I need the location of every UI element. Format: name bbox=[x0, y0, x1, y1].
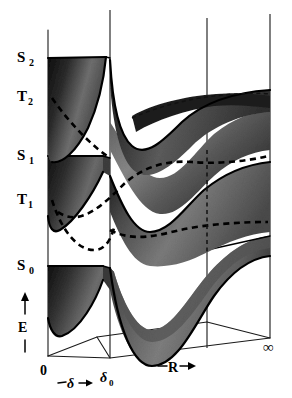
state-label-S0-sub: 0 bbox=[29, 265, 34, 276]
delta-axis-label: δ bbox=[67, 376, 74, 391]
delta-axis-lead-dash bbox=[58, 382, 66, 383]
r-infinity-label: ∞ bbox=[263, 339, 274, 355]
energy-axis-label: E bbox=[18, 320, 27, 335]
state-label-T2-letter: T bbox=[17, 88, 27, 104]
r-axis-label: R bbox=[168, 360, 179, 375]
state-label-S1-sub: 1 bbox=[29, 155, 34, 166]
edge-S2-top-left bbox=[48, 57, 106, 58]
state-label-T2-sub: 2 bbox=[28, 96, 33, 107]
state-label-S0-letter: S bbox=[17, 257, 25, 273]
state-label-T1-letter: T bbox=[17, 191, 27, 207]
delta0-label: δ bbox=[100, 370, 107, 385]
delta-origin-label: 0 bbox=[40, 363, 47, 378]
state-label-T1-sub: 1 bbox=[28, 199, 33, 210]
state-label-S2-letter: S bbox=[17, 49, 25, 65]
edge-S2-seam-top bbox=[106, 57, 110, 58]
potential-energy-surface-figure: S 2 T 2 S 1 T 1 S 0 E 0 δ bbox=[0, 0, 292, 398]
delta0-label-sub: 0 bbox=[109, 378, 114, 388]
state-label-S2-sub: 2 bbox=[29, 57, 34, 68]
state-label-S1-letter: S bbox=[17, 147, 25, 163]
